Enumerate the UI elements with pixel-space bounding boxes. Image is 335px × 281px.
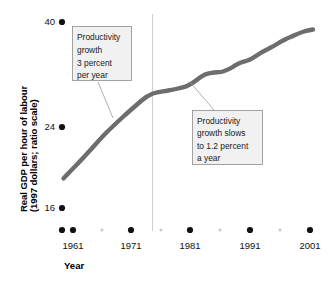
y-axis-title-line2: (1997 dollars; ratio scale)	[28, 100, 39, 212]
x-tick-dot-1966	[101, 229, 104, 232]
y-tick-label-24: 24	[44, 121, 55, 132]
annotation-left: Productivity growth 3 percent per year	[73, 27, 132, 119]
y-tick-label-40: 40	[44, 16, 55, 27]
annotation-right-line1: Productivity	[197, 116, 241, 126]
x-axis-ticks	[59, 227, 313, 233]
x-tick-label-2001: 2001	[299, 240, 320, 251]
x-tick-dot-1961	[70, 227, 76, 233]
annotation-right-line3: to 1.2 percent	[197, 141, 249, 151]
annotation-left-line3: 3 percent	[77, 58, 113, 68]
annotation-right-leader	[190, 82, 214, 110]
x-tick-label-1961: 1961	[62, 240, 83, 251]
x-axis-title: Year	[64, 260, 85, 271]
y-axis-ticks: 40 24 16	[44, 16, 65, 213]
annotation-left-line4: per year	[77, 70, 108, 80]
y-tick-dot-40	[59, 19, 65, 25]
x-tick-label-1981: 1981	[179, 240, 200, 251]
y-tick-label-16: 16	[44, 202, 55, 213]
productivity-growth-chart: Real GDP per hour of labour (1997 dollar…	[0, 0, 335, 281]
x-tick-dot-1986	[219, 229, 222, 232]
x-tick-label-1971: 1971	[120, 240, 141, 251]
x-tick-dot-origin	[59, 227, 65, 233]
x-tick-label-1991: 1991	[239, 240, 260, 251]
annotation-left-leader	[98, 82, 113, 118]
annotation-right: Productivity growth slows to 1.2 percent…	[190, 82, 263, 165]
x-tick-dot-1991	[247, 227, 253, 233]
x-axis-tick-labels: 1961 1971 1981 1991 2001	[62, 240, 320, 251]
annotation-right-line2: growth slows	[197, 128, 245, 138]
x-tick-dot-1971	[128, 227, 134, 233]
y-tick-dot-24	[59, 124, 65, 130]
annotation-right-line4: a year	[197, 153, 220, 163]
x-tick-dot-1996	[279, 229, 282, 232]
x-tick-dot-1976	[160, 229, 163, 232]
y-tick-dot-16	[59, 205, 65, 211]
annotation-left-line1: Productivity	[77, 32, 121, 42]
x-tick-dot-1981	[187, 227, 193, 233]
y-axis-title: Real GDP per hour of labour (1997 dollar…	[18, 86, 39, 212]
annotation-left-line2: growth	[77, 45, 102, 55]
x-tick-dot-2001	[307, 227, 313, 233]
